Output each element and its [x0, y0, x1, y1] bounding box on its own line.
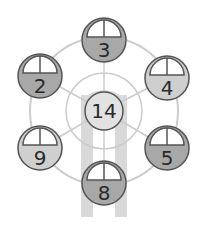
hub-total: 14 — [91, 99, 116, 123]
gondola-car-lower-right: 5 — [145, 126, 189, 170]
car-number: 3 — [98, 38, 111, 62]
gondola-car-upper-left: 2 — [18, 54, 62, 98]
ferris-wheel-diagram: 14 345892 — [0, 0, 203, 229]
gondola-car-upper-right: 4 — [145, 56, 189, 100]
car-number: 5 — [161, 146, 174, 170]
gondola-car-top: 3 — [82, 18, 126, 62]
car-number: 2 — [34, 74, 47, 98]
gondola-car-lower-left: 9 — [18, 126, 62, 170]
car-number: 8 — [98, 181, 111, 205]
gondola-car-bottom: 8 — [82, 161, 126, 205]
car-number: 9 — [34, 146, 47, 170]
ferris-wheel-puzzle: 14 345892 — [0, 0, 203, 229]
car-number: 4 — [161, 76, 174, 100]
